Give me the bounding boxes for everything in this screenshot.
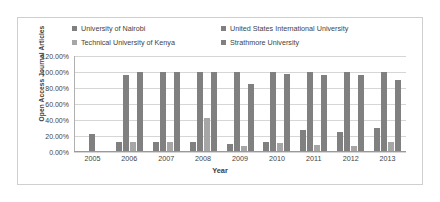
bar — [234, 72, 240, 152]
bar — [160, 72, 166, 152]
legend-label-strathmore-university: Strathmore University — [230, 38, 299, 47]
bar — [381, 72, 387, 152]
bar — [358, 75, 364, 152]
legend-item-university-of-nairobi: University of Nairobi — [72, 24, 145, 33]
bar-group — [222, 56, 259, 152]
x-axis-tick-label: 2011 — [295, 154, 332, 163]
legend-swatch-united-states-international-university — [221, 26, 226, 31]
y-axis-tick-label: 120.00% — [41, 53, 69, 60]
legend-swatch-technical-university-of-kenya — [72, 40, 77, 45]
x-axis-line — [74, 151, 406, 152]
bar — [321, 75, 327, 152]
x-axis-tick-label: 2013 — [369, 154, 406, 163]
bar-group — [332, 56, 369, 152]
bar-group — [295, 56, 332, 152]
bar-group — [74, 56, 111, 152]
bar-group — [258, 56, 295, 152]
bar — [374, 128, 380, 152]
bar — [248, 84, 254, 152]
x-axis-tick-label: 2008 — [185, 154, 222, 163]
x-axis-tick-label: 2005 — [74, 154, 111, 163]
bars-layer — [74, 56, 406, 152]
y-axis-tick-label: 100.00% — [41, 69, 69, 76]
bar — [284, 74, 290, 152]
x-axis-tick-label: 2007 — [148, 154, 185, 163]
legend-item-technical-university-of-kenya: Technical University of Kenya — [72, 38, 175, 47]
bar — [211, 72, 217, 152]
bar — [89, 134, 95, 152]
legend-item-strathmore-university: Strathmore University — [221, 38, 299, 47]
plot-area: 0.00%20.00%40.00%60.00%80.00%100.00%120.… — [74, 56, 406, 152]
bar — [395, 80, 401, 152]
bar — [137, 72, 143, 152]
legend-swatch-strathmore-university — [221, 40, 226, 45]
legend-item-united-states-international-university: United States International University — [221, 24, 348, 33]
bar — [300, 130, 306, 152]
legend-label-united-states-international-university: United States International University — [230, 24, 348, 33]
bar-group — [111, 56, 148, 152]
gridline — [74, 152, 406, 153]
bar — [197, 72, 203, 152]
x-axis-tick-labels: 200520062007200820092010201120122013 — [74, 154, 406, 163]
y-axis-tick-label: 60.00% — [45, 101, 69, 108]
y-axis-tick-labels: 0.00%20.00%40.00%60.00%80.00%100.00%120.… — [30, 56, 72, 152]
bar — [344, 72, 350, 152]
legend-label-university-of-nairobi: University of Nairobi — [81, 24, 145, 33]
x-axis-title: Year — [18, 166, 422, 175]
x-axis-tick-label: 2012 — [332, 154, 369, 163]
bar — [174, 72, 180, 152]
bar — [270, 72, 276, 152]
y-axis-tick-label: 80.00% — [45, 85, 69, 92]
bar — [307, 72, 313, 152]
bar-group — [185, 56, 222, 152]
bar-group — [148, 56, 185, 152]
bar-group — [369, 56, 406, 152]
legend-swatch-university-of-nairobi — [72, 26, 77, 31]
chart-container: University of Nairobi United States Inte… — [17, 17, 423, 185]
y-axis-tick-label: 20.00% — [45, 133, 69, 140]
x-axis-tick-label: 2006 — [111, 154, 148, 163]
bar — [337, 132, 343, 152]
bar — [123, 75, 129, 152]
chart-legend: University of Nairobi United States Inte… — [18, 22, 422, 56]
y-axis-tick-label: 40.00% — [45, 117, 69, 124]
bar — [204, 118, 210, 152]
y-axis-tick-label: 0.00% — [49, 149, 69, 156]
legend-label-technical-university-of-kenya: Technical University of Kenya — [81, 38, 175, 47]
x-axis-tick-label: 2010 — [258, 154, 295, 163]
x-axis-tick-label: 2009 — [222, 154, 259, 163]
